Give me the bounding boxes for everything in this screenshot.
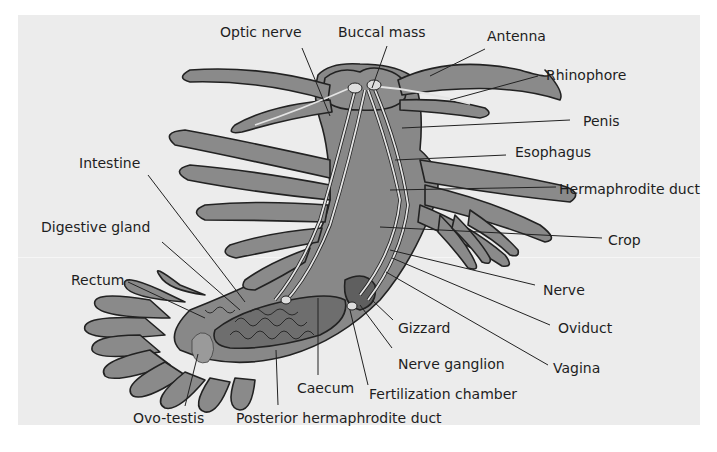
label-caecum: Caecum — [297, 380, 354, 396]
label-fertilization-chamber: Fertilization chamber — [369, 386, 517, 402]
label-optic-nerve: Optic nerve — [220, 24, 302, 40]
label-hermaphrodite-duct: Hermaphrodite duct — [559, 181, 700, 197]
ovo-testis-shape — [192, 333, 214, 363]
left-antenna — [183, 69, 331, 100]
label-digestive-gland: Digestive gland — [41, 219, 150, 235]
label-nerve-ganglion: Nerve ganglion — [398, 356, 505, 372]
label-rhinophore: Rhinophore — [546, 67, 626, 83]
label-rectum: Rectum — [71, 272, 124, 288]
label-intestine: Intestine — [79, 155, 140, 171]
label-oviduct: Oviduct — [558, 320, 612, 336]
right-antenna — [398, 64, 561, 100]
label-antenna: Antenna — [487, 28, 546, 44]
label-crop: Crop — [608, 232, 641, 248]
label-vagina: Vagina — [553, 360, 600, 376]
label-gizzard: Gizzard — [398, 320, 450, 336]
right-cerata — [418, 160, 576, 269]
label-buccal-mass: Buccal mass — [338, 24, 426, 40]
label-esophagus: Esophagus — [515, 144, 591, 160]
label-posterior-hermaphrodite-duct: Posterior hermaphrodite duct — [236, 410, 442, 426]
label-ovo-testis: Ovo-testis — [133, 410, 204, 426]
label-nerve: Nerve — [543, 282, 585, 298]
label-penis: Penis — [583, 113, 620, 129]
